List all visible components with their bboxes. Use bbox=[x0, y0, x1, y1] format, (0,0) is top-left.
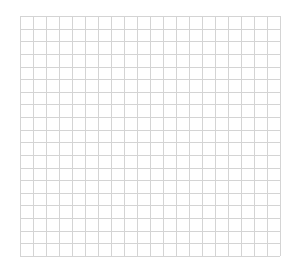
grid-canvas bbox=[0, 0, 295, 269]
